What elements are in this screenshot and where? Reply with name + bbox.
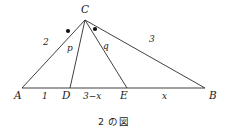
base-label-DE: 3−x <box>83 92 101 101</box>
vertex-label-A: A <box>14 90 22 101</box>
vertex-label-B: B <box>209 90 217 101</box>
angle-mark-dot-right <box>93 27 97 31</box>
segment-CE <box>85 20 127 88</box>
figure-caption: 2 の図 <box>0 114 227 128</box>
segment-CD <box>70 20 85 88</box>
side-label-CD: p <box>67 44 73 53</box>
base-label-AD: 1 <box>42 92 48 101</box>
vertex-label-E: E <box>120 90 128 101</box>
geometry-figure: A C B D E 2 p q 3 1 3−x x 2 の図 <box>0 0 227 133</box>
vertex-label-D: D <box>62 90 70 101</box>
side-label-AC: 2 <box>43 38 49 47</box>
segment-AC <box>22 20 85 88</box>
vertex-label-C: C <box>81 4 89 15</box>
side-label-CE: q <box>103 42 109 51</box>
side-label-CB: 3 <box>149 35 155 44</box>
angle-mark-dot-left <box>66 29 70 33</box>
base-label-EB: x <box>162 92 167 101</box>
segment-CB <box>85 20 205 88</box>
